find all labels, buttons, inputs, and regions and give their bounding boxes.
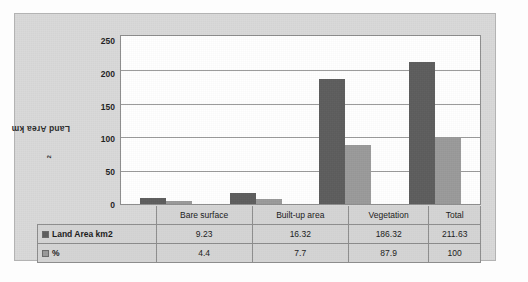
category-header-row: Bare surface Built-up area Vegetation To… xyxy=(38,206,481,225)
bar-total-series1 xyxy=(409,62,435,204)
table-corner-cell xyxy=(38,206,157,225)
table-cell: 87.9 xyxy=(348,244,429,263)
y-tick-label: 200 xyxy=(101,69,115,79)
table-cell: 186.32 xyxy=(348,225,429,244)
bar-group-vegetation xyxy=(301,36,391,204)
bar-vegetation-series1 xyxy=(319,79,345,204)
y-tick-label: 50 xyxy=(106,167,115,177)
legend-label-land-area: Land Area km2 xyxy=(52,229,113,239)
table-cell: 100 xyxy=(429,244,481,263)
y-axis-title-text: Land Area km xyxy=(11,124,69,134)
bar-group-bare-surface xyxy=(121,36,211,204)
legend-swatch-land-area-icon xyxy=(42,231,49,238)
table-cell: 4.4 xyxy=(156,244,252,263)
plot-area xyxy=(120,35,481,205)
legend-label-percent: % xyxy=(52,248,60,258)
table-row: % 4.4 7.7 87.9 100 xyxy=(38,244,481,263)
y-tick-label: 100 xyxy=(101,134,115,144)
table-cell: 7.7 xyxy=(252,244,348,263)
table-cell: 211.63 xyxy=(429,225,481,244)
category-label-vegetation: Vegetation xyxy=(348,206,429,225)
bar-vegetation-series2 xyxy=(345,145,371,204)
category-label-built-up-area: Built-up area xyxy=(252,206,348,225)
category-label-bare-surface: Bare surface xyxy=(156,206,252,225)
y-tick-label: 250 xyxy=(101,36,115,46)
data-table: Bare surface Built-up area Vegetation To… xyxy=(37,206,481,263)
bar-group-total xyxy=(390,36,480,204)
chart-card: Land Area km2 250 200 150 100 50 0 Bare … xyxy=(14,13,496,261)
bar-total-series2 xyxy=(435,137,461,204)
y-axis-title: Land Area km2 xyxy=(37,74,55,184)
bar-group-built-up-area xyxy=(211,36,301,204)
bar-built-up-area-series2 xyxy=(256,199,282,204)
legend-swatch-percent-icon xyxy=(42,250,49,257)
table-cell: 9.23 xyxy=(156,225,252,244)
y-axis-tick-labels: 250 200 150 100 50 0 xyxy=(77,35,119,205)
bar-bare-surface-series1 xyxy=(140,198,166,204)
legend-item-percent: % xyxy=(38,244,157,263)
category-label-total: Total xyxy=(429,206,481,225)
y-tick-label: 150 xyxy=(101,102,115,112)
chart-screenshot: Land Area km2 250 200 150 100 50 0 Bare … xyxy=(0,0,528,282)
y-axis-title-superscript: 2 xyxy=(46,155,52,159)
bar-groups xyxy=(121,36,480,204)
table-cell: 16.32 xyxy=(252,225,348,244)
bar-bare-surface-series2 xyxy=(166,201,192,204)
table-row: Land Area km2 9.23 16.32 186.32 211.63 xyxy=(38,225,481,244)
legend-item-land-area: Land Area km2 xyxy=(38,225,157,244)
bar-built-up-area-series1 xyxy=(230,193,256,204)
